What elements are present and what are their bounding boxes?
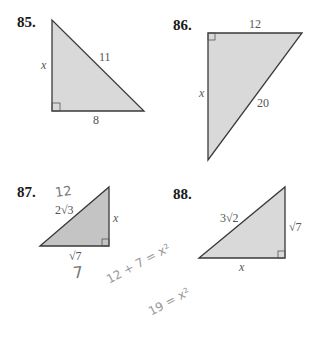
side-label-87-hypotenuse: 2√3 [55, 203, 74, 218]
triangle-85 [52, 20, 144, 111]
side-label-87-vertical: x [113, 211, 118, 226]
triangle-87 [40, 187, 109, 246]
side-label-86-hypotenuse: 20 [257, 96, 269, 111]
side-label-85-hypotenuse: 11 [99, 50, 111, 65]
triangle-86 [208, 33, 302, 160]
side-label-85-vertical: x [41, 58, 46, 73]
handwritten-note-7: 7 [72, 263, 84, 283]
handwritten-note-12: 12 [54, 183, 72, 200]
side-label-85-horizontal: 8 [93, 113, 99, 128]
problem-number-88: 88. [173, 186, 192, 203]
side-label-88-vertical: √7 [289, 220, 302, 235]
problem-number-85: 85. [17, 14, 36, 31]
figures [0, 0, 320, 337]
side-label-88-horizontal: x [239, 260, 244, 275]
triangle-88 [199, 187, 285, 258]
problem-number-86: 86. [173, 17, 192, 34]
side-label-88-hypotenuse: 3√2 [220, 211, 239, 226]
side-label-86-vertical: x [199, 86, 204, 101]
problem-number-87: 87. [17, 184, 36, 201]
side-label-86-horizontal: 12 [249, 17, 261, 32]
